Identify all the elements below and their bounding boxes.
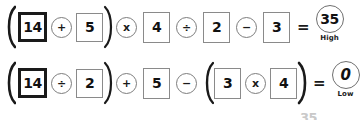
operator-plus-icon[interactable]: + [51, 17, 72, 38]
cropped-artifact-text: 35 [300, 111, 317, 120]
operator-divide-icon[interactable]: ÷ [176, 17, 197, 38]
open-paren-icon-2 [201, 61, 214, 105]
operator-minus-icon[interactable]: − [236, 17, 257, 38]
answer-label: High [320, 34, 339, 42]
number-box-5[interactable]: 5 [143, 68, 170, 99]
number-box-3[interactable]: 3 [263, 12, 290, 43]
answer-value[interactable]: 35 [316, 5, 344, 33]
answer-group-high: 35 High [313, 5, 347, 49]
number-box-14[interactable]: 14 [18, 68, 47, 98]
operator-multiply-icon[interactable]: x [116, 17, 137, 38]
answer-label: Low [338, 90, 354, 98]
answer-value[interactable]: 0 [332, 61, 360, 89]
equation-row-2: 14 ÷ 2 + 5 − 3 x 4 [0, 56, 341, 110]
close-paren-icon [103, 61, 116, 105]
number-box-3[interactable]: 3 [214, 68, 241, 99]
operator-plus-icon[interactable]: + [116, 73, 137, 94]
close-paren-icon [103, 5, 116, 49]
equals-sign: = [294, 20, 313, 35]
answer-group-low: 0 Low [329, 61, 363, 105]
equals-sign: = [310, 76, 329, 91]
operator-divide-icon[interactable]: ÷ [51, 73, 72, 94]
number-box-2[interactable]: 2 [76, 69, 103, 98]
equation-row-1: 14 + 5 x 4 ÷ 2 − 3 = 35 High [0, 0, 341, 54]
number-box-4[interactable]: 4 [143, 12, 170, 43]
number-box-14[interactable]: 14 [18, 12, 47, 42]
number-box-4[interactable]: 4 [270, 68, 297, 99]
number-box-5[interactable]: 5 [76, 13, 103, 42]
open-paren-icon [3, 5, 16, 49]
number-box-2[interactable]: 2 [203, 12, 230, 43]
operator-minus-icon[interactable]: − [176, 73, 197, 94]
open-paren-icon [3, 61, 16, 105]
close-paren-icon-2 [297, 61, 310, 105]
operator-multiply-icon[interactable]: x [245, 73, 266, 94]
